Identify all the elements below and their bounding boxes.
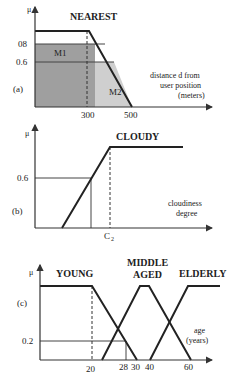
xtick-c2-subscript: 2: [111, 236, 114, 242]
xtick-28: 28: [119, 362, 129, 372]
cloudy-membership-line: [62, 147, 183, 228]
label-aged: AGED: [133, 269, 162, 280]
xlabel-b-line1: cloudiness: [168, 199, 202, 208]
panel-label-c: (c): [17, 298, 27, 308]
xtick-500: 500: [124, 110, 138, 120]
region-label-m1: M1: [54, 48, 67, 58]
title-nearest: NEAREST: [70, 11, 118, 22]
xlabel-c-line1: age: [194, 326, 206, 335]
label-elderly: ELDERLY: [179, 268, 227, 279]
ytick-08: 08: [18, 39, 28, 49]
ytick-02: 0.2: [22, 336, 33, 346]
panel-a-nearest: μ NEAREST 08 0.6 M1 M2 (a) distance d fr…: [13, 5, 212, 120]
mu-label-a: μ: [27, 5, 31, 14]
xtick-30: 30: [131, 362, 141, 372]
panel-b-cloudy: μ CLOUDY 0.6 (b) cloudiness degree C 2: [12, 125, 212, 242]
panel-label-b: (b): [12, 206, 23, 216]
xlabel-a-line2: user position: [160, 81, 201, 90]
region-m2: [95, 62, 132, 107]
ytick-06-b: 0.6: [17, 173, 29, 183]
xtick-20: 20: [86, 364, 96, 374]
region-label-m2: M2: [109, 87, 122, 97]
ytick-06-a: 0.6: [16, 57, 28, 67]
label-middle: MIDDLE: [127, 257, 168, 268]
xlabel-a-line3: (meters): [178, 91, 205, 100]
xlabel-c-line2: (years): [186, 336, 209, 345]
xtick-300: 300: [81, 110, 95, 120]
young-membership-line: [40, 286, 137, 360]
label-young: YOUNG: [56, 268, 93, 279]
panel-c-age: μ YOUNG MIDDLE AGED ELDERLY (c) 0.2 age …: [17, 257, 227, 374]
xtick-40: 40: [145, 362, 155, 372]
title-cloudy: CLOUDY: [116, 131, 160, 142]
xtick-60: 60: [184, 362, 194, 372]
xtick-c2: C: [104, 231, 110, 241]
xlabel-b-line2: degree: [176, 209, 198, 218]
mu-label-c: μ: [29, 268, 33, 277]
panel-label-a: (a): [13, 84, 23, 94]
fuzzy-membership-diagram: μ NEAREST 08 0.6 M1 M2 (a) distance d fr…: [0, 0, 231, 382]
mu-label-b: μ: [25, 129, 29, 138]
xlabel-a-line1: distance d from: [150, 71, 201, 80]
